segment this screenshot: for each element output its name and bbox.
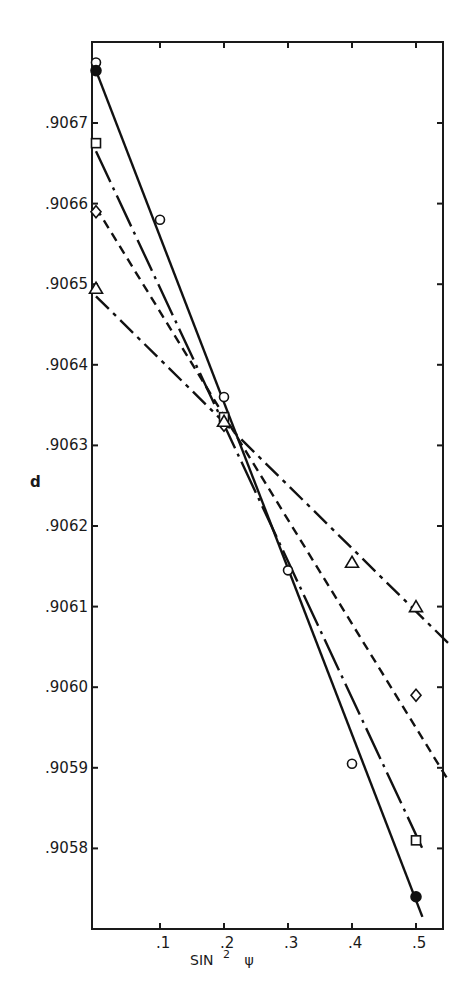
fit-line-long-dash-dot [96, 151, 422, 848]
x-axis-ticks [160, 42, 416, 929]
x-axis-tick-labels: .1.2.3.4.5 [156, 934, 426, 952]
x-tick-label: .4 [348, 934, 362, 952]
marker-circle-filled [411, 892, 421, 902]
marker-circle-open [220, 393, 229, 402]
marker-triangle [346, 556, 359, 567]
marker-circle-filled [91, 66, 101, 76]
x-axis-label-psi: ψ [244, 952, 253, 968]
x-tick-label: .5 [412, 934, 426, 952]
y-tick-label: .9061 [45, 598, 88, 616]
chart: .1.2.3.4.5 .9067.9066.9065.9064.9063.906… [0, 0, 471, 1001]
x-axis-label-main: SIN [190, 952, 214, 968]
y-tick-label: .9065 [45, 275, 88, 293]
y-tick-label: .9063 [45, 436, 88, 454]
marker-circle-open [348, 759, 357, 768]
y-tick-label: .9067 [45, 114, 88, 132]
marker-square [92, 139, 101, 148]
marker-diamond [411, 689, 421, 701]
plot-frame [92, 42, 443, 929]
fit-line-dashed [96, 208, 448, 780]
fit-line-dash-dot [96, 296, 448, 643]
marker-circle-open [156, 215, 165, 224]
x-tick-label: .3 [284, 934, 298, 952]
marker-square [412, 836, 421, 845]
y-axis-label: d [30, 473, 41, 491]
y-axis-ticks [92, 123, 443, 848]
y-tick-label: .9060 [45, 678, 88, 696]
marker-circle-open [284, 566, 293, 575]
fit-line-solid [96, 71, 422, 917]
y-tick-label: .9066 [45, 195, 88, 213]
x-tick-label: .1 [156, 934, 170, 952]
fit-lines [96, 71, 448, 917]
y-axis-tick-labels: .9067.9066.9065.9064.9063.9062.9061.9060… [45, 114, 88, 857]
x-axis-label-superscript: 2 [223, 948, 230, 961]
y-tick-label: .9059 [45, 759, 88, 777]
y-tick-label: .9064 [45, 356, 88, 374]
y-tick-label: .9058 [45, 839, 88, 857]
y-tick-label: .9062 [45, 517, 88, 535]
